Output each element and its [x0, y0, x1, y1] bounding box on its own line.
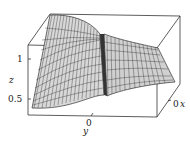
x-tick-0: 0 — [173, 99, 179, 109]
surface-mesh-left — [32, 15, 104, 108]
y-axis-label: y — [82, 126, 89, 136]
z-axis-label: z — [8, 75, 14, 85]
surface-mesh-right — [104, 34, 175, 96]
surface-plot: 1 0.5 z 0 y 0 x — [0, 0, 190, 142]
z-tick-1: 1 — [17, 54, 23, 64]
x-axis-label: x — [180, 99, 185, 109]
z-tick-0.5: 0.5 — [8, 94, 23, 104]
